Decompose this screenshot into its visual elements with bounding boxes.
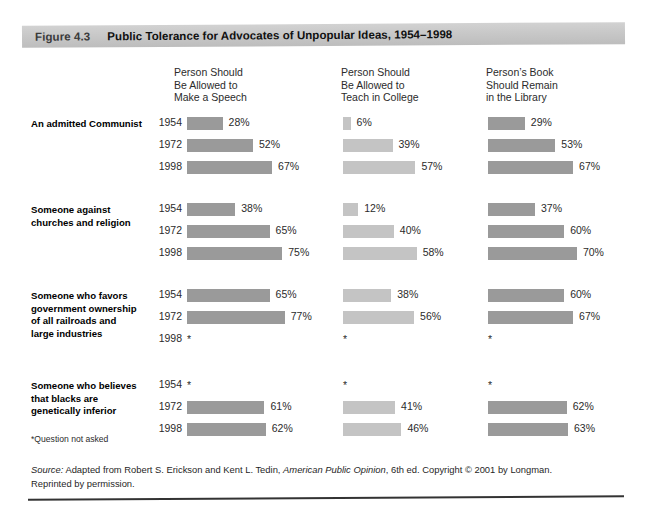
year-label: 1972 [152,400,182,412]
year-label: 1998 [152,332,182,344]
group-label: Someone who believes that blacks are gen… [31,380,137,418]
bar-value-label: 62% [272,422,293,434]
bar-value-label: 38% [241,202,262,214]
bar-value-label: 38% [397,288,418,300]
bar [187,401,264,414]
bar [488,311,573,324]
bar [488,423,568,436]
source-citation: Source: Adapted from Robert S. Erickson … [31,463,591,491]
bar-value-label: 29% [531,116,552,128]
bar-value-label: 67% [278,160,299,172]
year-label: 1954 [152,116,182,128]
bar-value-label: 67% [579,310,600,322]
missing-value-marker: * [187,333,191,345]
year-label: 1998 [152,246,182,258]
bar-value-label: 52% [259,138,280,150]
missing-value-marker: * [343,379,347,391]
bar [343,139,393,152]
bar-value-label: 56% [420,310,441,322]
year-label: 1972 [152,310,182,322]
year-label: 1972 [152,138,182,150]
year-label: 1998 [152,422,182,434]
bar-value-label: 60% [570,224,591,236]
group-label: Someone against churches and religion [31,204,131,229]
bar [343,161,415,174]
bar [488,401,567,414]
bar [343,247,417,260]
year-label: 1998 [152,160,182,172]
bar [187,247,282,260]
bar-value-label: 57% [421,160,442,172]
bar-value-label: 46% [407,422,428,434]
bar [488,139,555,152]
bar-value-label: 39% [399,138,420,150]
bar [488,225,564,238]
group-label: Someone who favors government ownership … [31,290,137,340]
bar [343,289,391,302]
missing-value-marker: * [343,333,347,345]
year-label: 1954 [152,202,182,214]
bar [187,289,270,302]
bar [343,311,414,324]
source-book-title: American Public Opinion [283,464,386,475]
bar [187,117,223,130]
source-text-before-title: Adapted from Robert S. Erickson and Kent… [63,464,283,475]
bar-value-label: 75% [288,246,309,258]
bar-value-label: 70% [583,246,604,258]
bar-value-label: 6% [357,116,372,128]
bar [187,225,270,238]
bar [488,203,535,216]
bar-value-label: 37% [541,202,562,214]
missing-value-marker: * [488,333,492,345]
bar [488,289,564,302]
column-header-1: Person Should Be Allowed to Make a Speec… [174,66,247,104]
bar-value-label: 61% [270,400,291,412]
group-label: An admitted Communist [31,118,142,131]
bar-value-label: 41% [401,400,422,412]
bar [343,203,358,216]
missing-value-marker: * [488,379,492,391]
bar-value-label: 12% [364,202,385,214]
bar [343,117,351,130]
bar [187,139,253,152]
year-label: 1954 [152,288,182,300]
source-label: Source: [31,464,63,475]
bar [187,423,266,436]
bar [343,225,394,238]
bar-value-label: 67% [579,160,600,172]
bar-value-label: 28% [229,116,250,128]
bar [488,247,577,260]
bar-value-label: 58% [423,246,444,258]
bar-value-label: 63% [574,422,595,434]
bar-value-label: 53% [561,138,582,150]
column-header-3: Person’s Book Should Remain in the Libra… [486,66,558,104]
bar [187,311,285,324]
year-label: 1972 [152,224,182,236]
bar-value-label: 65% [276,288,297,300]
column-header-2: Person Should Be Allowed to Teach in Col… [341,66,419,104]
year-label: 1954 [152,378,182,390]
bar-value-label: 60% [570,288,591,300]
bar [488,161,573,174]
bar [343,423,401,436]
bar [187,161,272,174]
bar [488,117,525,130]
bar-value-label: 40% [400,224,421,236]
bar [187,203,235,216]
bar-value-label: 65% [276,224,297,236]
footnote-question-not-asked: *Question not asked [31,434,108,444]
bar [343,401,395,414]
bar-value-label: 77% [291,310,312,322]
missing-value-marker: * [187,379,191,391]
bar-value-label: 62% [573,400,594,412]
